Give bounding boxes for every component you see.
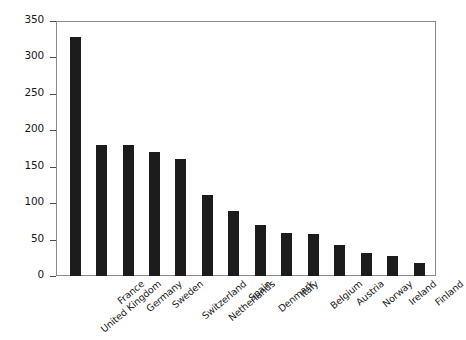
bar [281, 233, 292, 276]
bar [228, 211, 239, 276]
x-tick-label: Norway [381, 278, 415, 309]
bar [202, 195, 213, 276]
x-tick-label-text: Norway [381, 278, 415, 309]
y-tick-label: 0 [38, 268, 44, 280]
y-tick-label: 50 [31, 232, 44, 244]
x-tick-label: Finland [433, 278, 466, 308]
bar-series [56, 21, 436, 276]
bar [175, 159, 186, 276]
bar [96, 145, 107, 276]
bar [361, 253, 372, 276]
y-tick-label: 350 [25, 13, 44, 25]
y-tick-mark [50, 276, 56, 277]
bar [334, 245, 345, 276]
y-tick-label: 150 [25, 159, 44, 171]
bar [387, 256, 398, 276]
y-tick-label: 300 [25, 49, 44, 61]
bar [149, 152, 160, 276]
bar [123, 145, 134, 276]
y-tick-label: 200 [25, 122, 44, 134]
y-tick-label: 250 [25, 86, 44, 98]
y-tick-label: 100 [25, 195, 44, 207]
bar [414, 263, 425, 276]
x-tick-label-text: Finland [433, 278, 466, 308]
bar [70, 37, 81, 276]
x-axis-labels: United KingdomFranceGermanySwedenSwitzer… [56, 278, 450, 340]
bar [308, 234, 319, 276]
bar [255, 225, 266, 276]
